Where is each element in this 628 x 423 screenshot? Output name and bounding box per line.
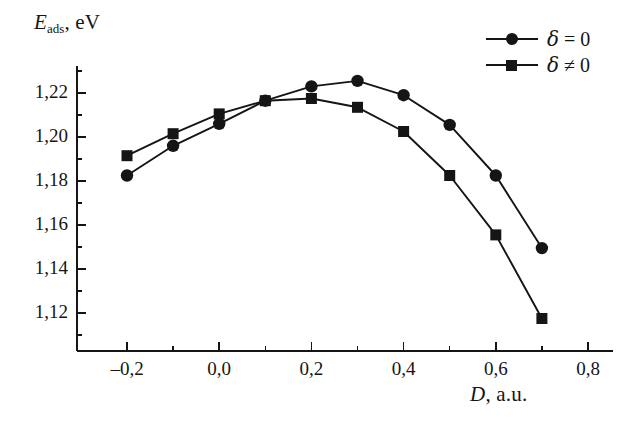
data-point-circle — [305, 80, 317, 92]
x-tick-label: –0,2 — [97, 358, 157, 380]
legend-sample-square — [486, 55, 538, 75]
data-point-square — [398, 126, 409, 137]
data-point-square — [306, 93, 317, 104]
data-point-square — [168, 128, 179, 139]
axis-lines — [77, 66, 613, 351]
x-tick-label: 0,4 — [374, 358, 434, 380]
legend-sample-circle — [486, 29, 538, 49]
tick-marks — [77, 71, 588, 351]
y-tick-label: 1,16 — [2, 213, 68, 235]
y-axis-title: Eads, eV — [34, 10, 100, 37]
x-tick-label: 0,6 — [466, 358, 526, 380]
data-point-square — [260, 95, 271, 106]
y-tick-label: 1,20 — [2, 125, 68, 147]
series-line-delta-nonzero — [127, 99, 542, 319]
data-point-circle — [397, 89, 409, 101]
x-axis-title: D, a.u. — [470, 382, 527, 407]
data-point-circle — [444, 119, 456, 131]
legend-label-delta-zero: δ = 0 — [538, 27, 590, 51]
legend-item-delta-nonzero: δ ≠ 0 — [486, 52, 622, 78]
square-marker-icon — [506, 60, 517, 71]
y-tick-label: 1,14 — [2, 257, 68, 279]
y-axis-unit: , eV — [64, 10, 100, 34]
circle-marker-icon — [506, 33, 518, 45]
data-point-circle — [213, 118, 225, 130]
data-point-circle — [536, 242, 548, 254]
chart-legend: δ = 0 δ ≠ 0 — [486, 26, 622, 78]
data-point-circle — [167, 140, 179, 152]
data-point-square — [536, 313, 547, 324]
y-tick-label: 1,22 — [2, 81, 68, 103]
data-point-square — [122, 150, 133, 161]
data-point-circle — [121, 169, 133, 181]
x-tick-label: 0,0 — [189, 358, 249, 380]
chart-figure: Eads, eV D, a.u. 1,221,201,181,161,141,1… — [0, 0, 628, 423]
data-point-circle — [490, 169, 502, 181]
x-axis-symbol: D — [470, 382, 485, 406]
data-point-circle — [351, 75, 363, 87]
data-point-square — [352, 102, 363, 113]
data-point-square — [444, 170, 455, 181]
data-point-square — [214, 108, 225, 119]
legend-item-delta-zero: δ = 0 — [486, 26, 622, 52]
series-line-delta-zero — [127, 81, 542, 248]
x-axis-unit: , a.u. — [485, 382, 527, 406]
x-tick-label: 0,2 — [281, 358, 341, 380]
y-tick-label: 1,18 — [2, 169, 68, 191]
x-tick-label: 0,8 — [558, 358, 618, 380]
data-point-square — [490, 229, 501, 240]
series-layer — [121, 75, 548, 324]
y-tick-label: 1,12 — [2, 301, 68, 323]
legend-label-delta-nonzero: δ ≠ 0 — [538, 53, 590, 77]
y-axis-symbol: E — [34, 10, 47, 34]
y-axis-subscript: ads — [47, 21, 64, 36]
